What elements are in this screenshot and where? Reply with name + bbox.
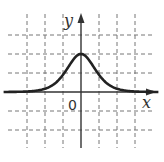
- grid-lines: [8, 14, 152, 148]
- y-axis-arrow-icon: [78, 13, 85, 23]
- chart: y x 0: [0, 0, 164, 162]
- origin-label: 0: [68, 97, 77, 113]
- x-axis-label: x: [142, 93, 151, 112]
- y-axis-label: y: [63, 11, 74, 30]
